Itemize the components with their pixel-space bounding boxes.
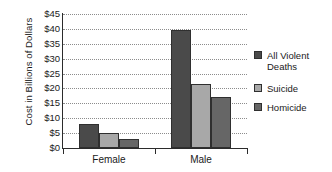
x-tick-label: Female xyxy=(69,154,149,165)
y-tick-label: $0 xyxy=(24,143,60,153)
legend-item[interactable]: Homicide xyxy=(254,102,307,113)
legend-label: All Violent Deaths xyxy=(267,50,309,72)
bar xyxy=(191,84,211,148)
legend-item[interactable]: Suicide xyxy=(254,83,298,94)
y-tick-label: $10 xyxy=(24,113,60,123)
gridline xyxy=(63,44,247,45)
bar xyxy=(79,124,99,148)
x-axis-tick xyxy=(63,148,64,154)
legend-label: Suicide xyxy=(267,83,298,94)
gridline xyxy=(63,14,247,15)
x-axis-tick xyxy=(247,148,248,154)
gridline xyxy=(63,59,247,60)
bar xyxy=(119,139,139,148)
bar xyxy=(99,133,119,148)
bar xyxy=(171,30,191,148)
legend-swatch-icon xyxy=(254,84,262,92)
y-tick-label: $25 xyxy=(24,69,60,79)
legend-item[interactable]: All Violent Deaths xyxy=(254,50,309,72)
legend-swatch-icon xyxy=(254,103,262,111)
y-axis-tick-labels: $0$5$10$15$20$25$30$35$40$45 xyxy=(24,0,60,172)
y-tick-label: $30 xyxy=(24,54,60,64)
gridline xyxy=(63,74,247,75)
y-tick-label: $15 xyxy=(24,98,60,108)
y-tick-label: $20 xyxy=(24,83,60,93)
y-tick-label: $5 xyxy=(24,128,60,138)
plot-area xyxy=(63,14,247,148)
legend-label: Homicide xyxy=(267,102,307,113)
x-axis-tick xyxy=(155,148,156,154)
y-tick-label: $35 xyxy=(24,39,60,49)
x-tick-label: Male xyxy=(161,154,241,165)
y-tick-label: $45 xyxy=(24,9,60,19)
y-tick-label: $40 xyxy=(24,24,60,34)
bar-chart: Cost in Billions of Dollars $0$5$10$15$2… xyxy=(0,0,332,172)
gridline xyxy=(63,88,247,89)
legend-swatch-icon xyxy=(254,51,262,59)
bar xyxy=(211,97,231,148)
y-axis-line xyxy=(62,13,63,149)
gridline xyxy=(63,29,247,30)
